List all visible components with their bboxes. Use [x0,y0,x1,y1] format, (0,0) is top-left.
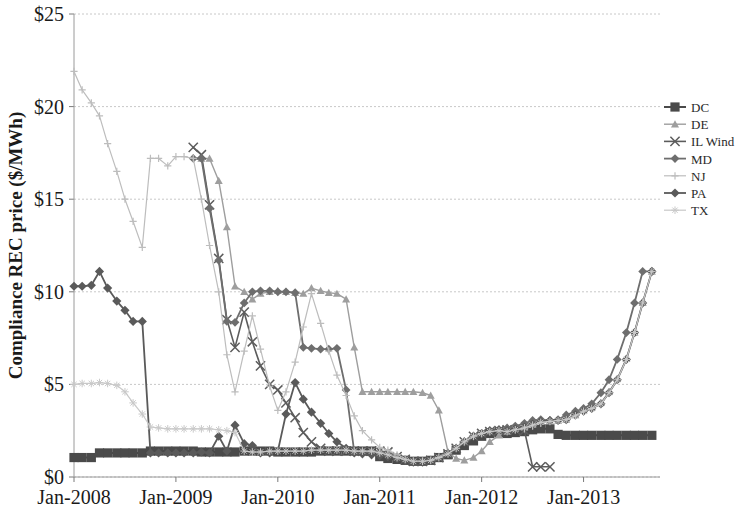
data-point-marker [69,282,78,291]
data-point-marker [419,457,427,465]
data-point-marker [325,446,333,454]
data-point-marker [205,204,214,213]
x-tick-label: Jan-2008 [37,486,110,508]
data-point-marker [291,413,300,422]
data-point-marker [613,355,622,364]
data-point-marker [630,431,639,440]
data-point-marker [214,447,223,456]
series-de [197,154,655,463]
data-point-marker [130,218,137,225]
data-point-marker [486,428,494,436]
data-point-marker [172,425,180,433]
data-point-marker [231,429,239,437]
legend-label-il-wind[interactable]: IL Wind [691,134,735,149]
legend-label-tx[interactable]: TX [691,203,709,218]
data-point-marker [147,155,154,162]
data-point-marker [671,154,680,163]
data-point-marker [189,425,197,433]
data-point-marker [274,407,281,414]
legend-label-dc[interactable]: DC [691,100,709,115]
data-point-marker [631,329,639,337]
data-point-marker [333,446,341,454]
x-tick-label: Jan-2009 [139,486,212,508]
series-nj [70,68,655,465]
y-tick-label: $15 [34,188,64,210]
data-point-marker [427,457,435,465]
data-point-marker [266,383,273,390]
data-point-marker [435,454,443,462]
data-point-marker [214,256,223,265]
data-point-marker [96,112,103,119]
y-tick-label: $0 [44,466,64,488]
data-point-marker [155,424,163,432]
data-point-marker [623,356,631,364]
data-point-marker [435,406,443,413]
data-point-marker [384,451,392,459]
data-point-marker [70,68,77,75]
data-point-marker [622,431,631,440]
data-point-marker [190,155,197,162]
data-point-marker [350,447,358,455]
data-point-marker [317,320,324,327]
legend-label-de[interactable]: DE [691,117,708,132]
data-point-marker [292,359,299,366]
data-point-marker [343,392,350,399]
x-tick-label: Jan-2010 [241,486,314,508]
legend-label-pa[interactable]: PA [691,186,707,201]
data-point-marker [604,431,613,440]
data-point-marker [333,372,340,379]
data-point-marker [241,347,248,354]
data-point-marker [307,437,316,446]
data-point-marker [300,447,308,455]
x-tick-label: Jan-2013 [547,486,620,508]
data-point-marker [579,431,588,440]
data-point-marker [562,431,571,440]
data-point-marker [478,430,486,438]
data-point-marker [571,431,580,440]
legend: DCDEIL WindMDNJPATX [664,100,735,218]
data-point-marker [104,140,111,147]
data-point-marker [376,449,384,457]
data-point-marker [503,428,511,436]
data-point-marker [613,431,622,440]
data-point-marker [342,446,350,454]
data-point-marker [299,428,308,437]
data-point-marker [215,426,223,434]
data-point-marker [87,453,96,462]
x-tick-label: Jan-2012 [445,486,518,508]
data-point-marker [249,312,256,319]
series-il-wind [189,143,555,472]
data-point-marker [113,382,121,390]
data-point-marker [78,380,86,388]
axes [74,14,660,477]
data-point-marker [223,223,231,230]
data-point-marker [605,389,613,397]
data-point-marker [291,378,300,387]
legend-label-md[interactable]: MD [691,152,712,167]
data-point-marker [79,86,86,93]
data-point-marker [622,328,631,337]
data-point-marker [266,447,274,455]
data-point-marker [223,427,231,435]
data-point-marker [121,388,129,396]
data-point-marker [88,380,96,388]
data-point-marker [139,244,146,251]
data-point-marker [222,317,231,326]
data-point-marker [638,267,647,276]
data-point-marker [350,343,358,350]
data-point-marker [273,287,282,296]
legend-label-nj[interactable]: NJ [691,169,705,184]
data-point-marker [461,438,469,446]
data-point-marker [470,432,478,440]
data-point-marker [215,288,222,295]
data-point-marker [537,419,545,427]
data-point-marker [299,395,308,404]
data-point-marker [670,188,679,197]
data-point-marker [129,448,138,457]
data-point-marker [588,405,596,413]
data-point-marker [486,438,494,445]
y-tick-label: $10 [34,281,64,303]
data-point-marker [444,450,452,458]
data-point-marker [198,196,205,203]
series-line [193,158,652,461]
